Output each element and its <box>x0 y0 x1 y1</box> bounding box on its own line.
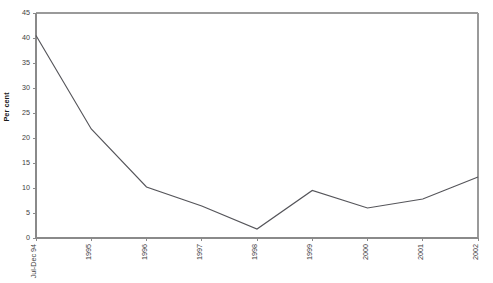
y-axis-ticks: 051015202530354045 <box>22 8 36 242</box>
y-tick-label: 35 <box>22 58 30 67</box>
x-tick-label: 2001 <box>416 244 425 260</box>
x-tick-label: 1995 <box>84 244 93 260</box>
y-tick-label: 30 <box>22 83 30 92</box>
x-tick-label: 1997 <box>195 244 204 260</box>
y-tick-label: 5 <box>26 208 30 217</box>
line-chart: 051015202530354045 Jul-Dec 9419951996199… <box>0 0 493 283</box>
y-axis-title: Per cent <box>2 92 11 122</box>
x-tick-label: 1998 <box>250 244 259 260</box>
y-tick-label: 25 <box>22 108 30 117</box>
x-tick-label: 2000 <box>361 244 370 260</box>
y-tick-label: 15 <box>22 158 30 167</box>
x-tick-label: 1999 <box>305 244 314 260</box>
y-tick-label: 20 <box>22 133 30 142</box>
data-series-line <box>36 36 478 230</box>
x-tick-label: 1996 <box>140 244 149 260</box>
y-tick-label: 45 <box>22 8 30 17</box>
y-tick-label: 10 <box>22 183 30 192</box>
chart-canvas: 051015202530354045 Jul-Dec 9419951996199… <box>0 0 493 283</box>
x-axis-ticks: Jul-Dec 94199519961997199819992000200120… <box>29 238 480 278</box>
plot-frame <box>36 13 478 238</box>
y-tick-label: 0 <box>26 233 30 242</box>
x-tick-label: 2002 <box>471 244 480 260</box>
y-tick-label: 40 <box>22 33 30 42</box>
x-tick-label: Jul-Dec 94 <box>29 244 38 278</box>
